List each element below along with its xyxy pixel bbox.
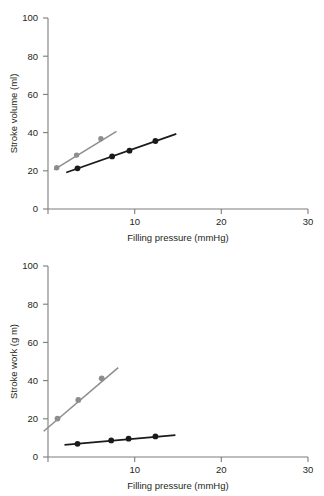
- bottom-gray-point-1: [55, 416, 61, 422]
- bottom-black-point-3: [126, 436, 132, 442]
- top-y-axis-title: Stroke volume (ml): [8, 74, 19, 154]
- top-ytick-0: 0: [33, 203, 38, 214]
- top-black-point-1: [75, 165, 81, 171]
- bottom-series-gray: [44, 368, 119, 432]
- top-x-tick-labels: 10 20 30: [129, 216, 313, 227]
- bottom-x-tick-labels: 10 20 30: [129, 464, 313, 475]
- stroke-volume-chart-panel: 0 20 40 60 80 100 10 20 30 Filling press…: [0, 0, 324, 248]
- bottom-black-fit-line: [65, 435, 176, 445]
- stroke-work-svg: 0 20 40 60 80 100 10 20 30 Filling press…: [0, 248, 324, 496]
- top-y-tick-labels: 0 20 40 60 80 100: [22, 12, 38, 214]
- top-black-point-4: [153, 138, 159, 144]
- top-black-point-2: [109, 154, 115, 160]
- top-y-ticks: [43, 18, 48, 209]
- top-gray-fit-line: [54, 131, 116, 169]
- bottom-axes: [43, 266, 308, 462]
- bottom-gray-point-2: [75, 397, 81, 403]
- bottom-xtick-10: 10: [129, 464, 140, 475]
- bottom-y-axis-title: Stroke work (g m): [8, 324, 19, 399]
- top-ytick-60: 60: [27, 89, 38, 100]
- bottom-black-point-1: [75, 441, 81, 447]
- bottom-series-black: [65, 434, 176, 447]
- bottom-ytick-20: 20: [27, 413, 38, 424]
- top-ytick-40: 40: [27, 127, 38, 138]
- bottom-y-tick-labels: 0 20 40 60 80 100: [22, 260, 38, 462]
- top-black-fit-line: [66, 134, 176, 173]
- bottom-ytick-60: 60: [27, 337, 38, 348]
- top-xtick-30: 30: [303, 216, 314, 227]
- bottom-ytick-0: 0: [33, 451, 38, 462]
- top-black-point-3: [127, 148, 133, 154]
- top-xtick-20: 20: [216, 216, 227, 227]
- top-gray-point-2: [74, 152, 79, 157]
- top-gray-point-3: [98, 136, 103, 141]
- bottom-ytick-40: 40: [27, 375, 38, 386]
- bottom-x-ticks: [48, 457, 308, 462]
- bottom-xtick-30: 30: [303, 464, 314, 475]
- top-ytick-20: 20: [27, 165, 38, 176]
- top-axes: [43, 18, 308, 214]
- stroke-volume-svg: 0 20 40 60 80 100 10 20 30 Filling press…: [0, 0, 324, 248]
- bottom-black-point-4: [153, 434, 159, 440]
- top-ytick-80: 80: [27, 51, 38, 62]
- top-series-black: [66, 134, 176, 173]
- bottom-xtick-20: 20: [216, 464, 227, 475]
- top-xtick-10: 10: [129, 216, 140, 227]
- top-x-axis-title: Filling pressure (mmHg): [127, 232, 228, 243]
- stroke-work-chart-panel: 0 20 40 60 80 100 10 20 30 Filling press…: [0, 248, 324, 496]
- top-gray-point-1: [54, 165, 59, 170]
- bottom-black-point-2: [108, 438, 114, 444]
- bottom-ytick-100: 100: [22, 260, 38, 271]
- top-ytick-100: 100: [22, 12, 38, 23]
- bottom-x-axis-title: Filling pressure (mmHg): [127, 480, 228, 491]
- top-series-gray: [54, 131, 117, 170]
- bottom-gray-point-3: [99, 375, 105, 381]
- bottom-ytick-80: 80: [27, 299, 38, 310]
- top-x-ticks: [48, 209, 308, 214]
